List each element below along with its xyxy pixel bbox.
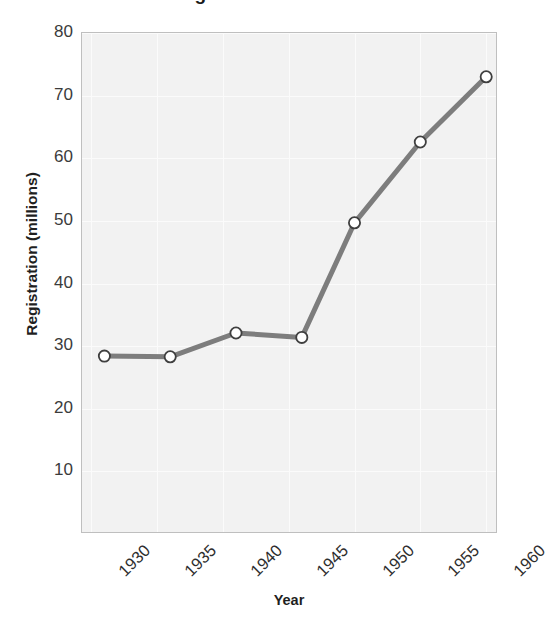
x-tick-label-1960: 1960	[510, 541, 549, 580]
x-tick-label-1940: 1940	[247, 541, 286, 580]
x-tick-label-1945: 1945	[312, 541, 351, 580]
x-tick-label-1950: 1950	[378, 541, 417, 580]
x-axis-title: Year	[81, 592, 497, 608]
x-tick-label-1930: 1930	[115, 541, 154, 580]
x-tick-label-1955: 1955	[444, 541, 483, 580]
x-tick-label-1935: 1935	[181, 541, 220, 580]
